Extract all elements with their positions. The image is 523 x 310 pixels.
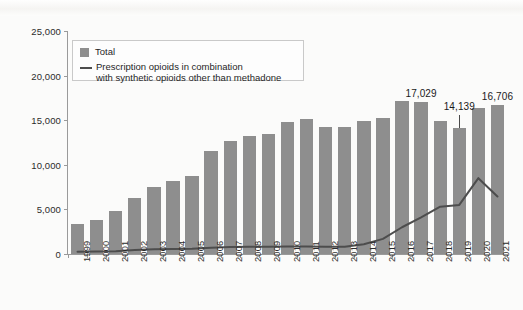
x-axis-tick-label: 2002 xyxy=(139,241,149,262)
data-label-leader-line xyxy=(459,115,460,128)
x-axis-tick-label: 2017 xyxy=(425,241,435,262)
y-axis-tick-label: 25,000 xyxy=(1,26,68,37)
x-axis-tick-label: 2012 xyxy=(330,241,340,262)
x-axis-tick-label: 2009 xyxy=(272,241,282,262)
scan-artifact-band xyxy=(0,0,523,16)
x-axis-tick-label: 2011 xyxy=(311,241,321,262)
chart-figure: 05,00010,00015,00020,00025,000 17,02914,… xyxy=(0,0,523,310)
x-axis-tick-label: 2021 xyxy=(501,241,511,262)
legend-label-line-2: with synthetic opioids other than methad… xyxy=(96,72,281,83)
y-axis-tick-label: 15,000 xyxy=(1,115,68,126)
x-axis-tick-label: 2007 xyxy=(234,241,244,262)
data-label: 17,029 xyxy=(406,88,437,99)
legend-label-total: Total xyxy=(95,46,115,58)
x-axis-tick-label: 2016 xyxy=(406,241,416,262)
x-axis-tick-label: 2008 xyxy=(253,241,263,262)
legend-item-total: Total xyxy=(80,46,296,58)
chart-legend: Total Prescription opioids in combinatio… xyxy=(72,40,304,81)
x-axis-tick-label: 2018 xyxy=(444,241,454,262)
x-axis-tick-label: 2003 xyxy=(158,241,168,262)
x-axis-tick-label: 2001 xyxy=(120,241,130,262)
x-axis-tick-label: 2005 xyxy=(196,241,206,262)
y-axis-tick-label: 0 xyxy=(1,249,68,260)
x-axis-tick-mark xyxy=(68,254,69,258)
x-axis-tick-label: 2010 xyxy=(292,241,302,262)
x-axis-tick-label: 1999 xyxy=(82,241,92,262)
x-axis-tick-label: 2004 xyxy=(177,241,187,262)
y-axis-tick-label: 20,000 xyxy=(1,70,68,81)
y-axis-tick-label: 10,000 xyxy=(1,159,68,170)
x-axis-tick-label: 2019 xyxy=(463,241,473,262)
data-label: 16,706 xyxy=(482,91,513,102)
data-label: 14,139 xyxy=(444,101,475,112)
legend-swatch-icon xyxy=(80,48,89,57)
x-axis-tick-label: 2014 xyxy=(368,241,378,262)
x-axis-tick-label: 2006 xyxy=(215,241,225,262)
x-axis-tick-label: 2020 xyxy=(482,241,492,262)
legend-line-icon xyxy=(80,67,92,69)
y-axis-tick-label: 5,000 xyxy=(1,204,68,215)
x-axis-tick-label: 2015 xyxy=(387,241,397,262)
legend-item-prescription-opioids: Prescription opioids in combination with… xyxy=(80,61,296,84)
x-axis-tick-label: 2000 xyxy=(101,241,111,262)
x-axis-tick-label: 2013 xyxy=(349,241,359,262)
legend-label-line-1: Prescription opioids in combination xyxy=(96,61,243,72)
